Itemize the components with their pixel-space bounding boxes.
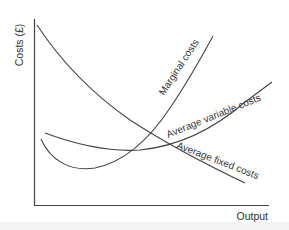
x-axis-label: Output bbox=[236, 210, 268, 222]
avc-label: Average variable costs bbox=[165, 92, 263, 140]
y-axis-label: Costs (£) bbox=[13, 24, 25, 67]
cost-curves-chart: Costs (£) Output Marginal costs Average … bbox=[0, 0, 289, 230]
mc-label: Marginal costs bbox=[156, 37, 200, 97]
afc-label: Average fixed costs bbox=[175, 140, 260, 181]
